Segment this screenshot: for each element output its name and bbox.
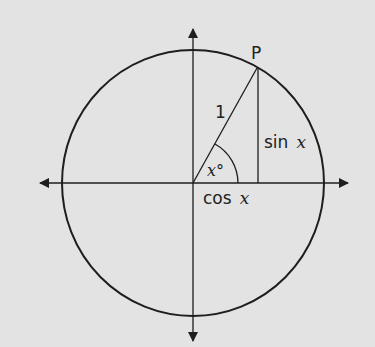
unit-circle-diagram: P 1 sin x x° cos x (0, 0, 375, 347)
cos-label: cos x (203, 188, 250, 208)
cos-variable: x (240, 188, 250, 208)
sin-label: sin x (264, 132, 307, 152)
radius-label: 1 (215, 102, 226, 122)
cos-word: cos (203, 188, 232, 208)
angle-label: x° (207, 161, 224, 180)
sin-word: sin (264, 132, 288, 152)
point-p-label: P (251, 43, 261, 63)
radius-line (193, 68, 257, 183)
sin-variable: x (297, 132, 307, 152)
